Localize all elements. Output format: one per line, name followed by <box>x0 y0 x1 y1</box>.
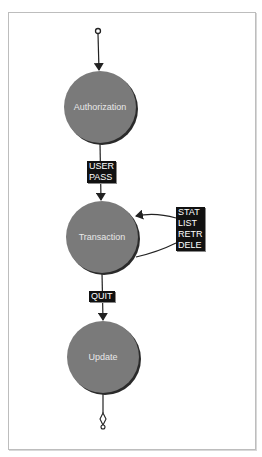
command-pass: PASS <box>89 172 114 183</box>
state-authorization[interactable]: Authorization <box>64 71 138 145</box>
state-authorization-label: Authorization <box>74 102 127 112</box>
state-diagram: Authorization Transaction Update <box>0 0 262 457</box>
edge-start-authorization <box>98 34 99 70</box>
command-user: USER <box>89 161 114 172</box>
command-dele: DELE <box>178 240 203 251</box>
command-stat: STAT <box>178 207 203 218</box>
transition-label-transaction-to-update: QUIT <box>89 291 115 302</box>
command-list: LIST <box>178 218 203 229</box>
edge-transaction-loop-out <box>136 243 176 257</box>
end-node-icon <box>100 413 106 429</box>
state-transaction[interactable]: Transaction <box>66 201 140 275</box>
transition-label-auth-to-transaction: USER PASS <box>87 161 116 183</box>
command-quit: QUIT <box>91 291 113 302</box>
state-update-label: Update <box>88 352 117 362</box>
start-node-icon <box>96 29 101 34</box>
edge-transaction-loop-in <box>136 214 176 218</box>
state-transaction-label: Transaction <box>79 232 126 242</box>
transition-label-transaction-loop: STAT LIST RETR DELE <box>176 207 205 251</box>
command-retr: RETR <box>178 229 203 240</box>
state-update[interactable]: Update <box>67 321 141 395</box>
